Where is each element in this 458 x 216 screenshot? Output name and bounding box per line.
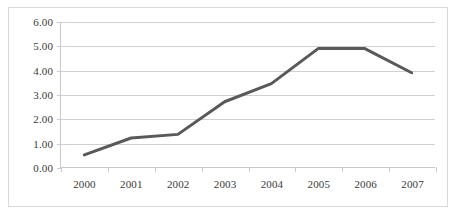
x-tick-mark — [436, 167, 437, 172]
x-axis-tick-label: 2002 — [167, 178, 189, 190]
y-axis-tick-label: 0.00 — [33, 162, 53, 174]
line-series-chart — [61, 22, 435, 167]
x-tick-mark — [389, 167, 390, 172]
x-tick-mark — [155, 167, 156, 172]
x-tick-mark — [202, 167, 203, 172]
y-axis-tick-label: 2.00 — [33, 113, 53, 125]
x-axis-tick-label: 2005 — [308, 178, 330, 190]
x-tick-mark — [342, 167, 343, 172]
data-series-line — [84, 49, 411, 155]
plot-area: 0.001.002.003.004.005.006.00 20002001200… — [60, 22, 435, 168]
x-axis-tick-label: 2003 — [214, 178, 236, 190]
chart-frame: 0.001.002.003.004.005.006.00 20002001200… — [8, 7, 448, 207]
x-axis-tick-label: 2007 — [401, 178, 423, 190]
x-tick-mark — [249, 167, 250, 172]
x-tick-mark — [295, 167, 296, 172]
x-axis-tick-label: 2001 — [120, 178, 142, 190]
x-axis-tick-label: 2004 — [261, 178, 283, 190]
x-axis-tick-label: 2000 — [73, 178, 95, 190]
y-axis-tick-label: 6.00 — [33, 16, 53, 28]
y-axis-tick-label: 1.00 — [33, 138, 53, 150]
x-axis-tick-label: 2006 — [354, 178, 376, 190]
x-tick-mark — [61, 167, 62, 172]
x-tick-mark — [108, 167, 109, 172]
y-axis-tick-label: 4.00 — [33, 65, 53, 77]
y-axis-tick-label: 3.00 — [33, 89, 53, 101]
y-axis-tick-label: 5.00 — [33, 40, 53, 52]
